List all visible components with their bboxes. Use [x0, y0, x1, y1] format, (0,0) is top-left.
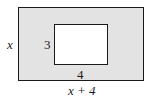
inner-height-label: 3 [44, 38, 51, 51]
outer-height-label: x [7, 38, 13, 51]
outer-width-label: x + 4 [68, 84, 96, 97]
inner-rectangle [54, 24, 108, 65]
inner-width-label: 4 [77, 68, 84, 81]
